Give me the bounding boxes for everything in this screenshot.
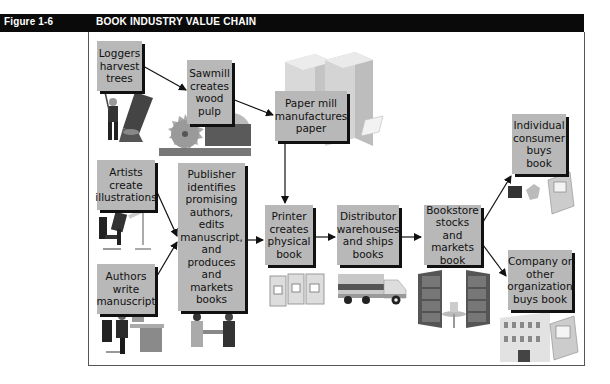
node-paper-mill-label: Paper mill manufactures paper [275,97,348,135]
office-building-icon [500,310,582,362]
node-loggers: Loggers harvest trees [97,41,142,91]
node-artists: Artists create illustrations [97,160,155,210]
node-distributor: Distributor warehouses and ships books [337,205,399,265]
node-artists-label: Artists create illustrations [95,166,156,204]
author-desk-icon [100,310,170,360]
figure-label: Figure 1-6 [4,15,53,27]
handshake-icon [185,312,245,352]
node-individual-consumer-label: Individual consumer buys book [513,119,565,169]
node-sawmill-label: Sawmill creates wood pulp [189,67,230,117]
consumer-computer-icon [508,170,578,216]
node-company-label: Company or other organization buys book [507,255,572,305]
node-loggers-label: Loggers harvest trees [99,47,141,85]
node-sawmill: Sawmill creates wood pulp [187,60,232,124]
printed-books-icon [268,272,328,308]
node-printer: Printer creates physical book [265,205,313,265]
node-publisher-label: Publisher identifies promising authors, … [180,168,243,306]
node-printer-label: Printer creates physical book [267,210,310,260]
truck-icon [336,272,408,306]
bookshelves-icon [418,270,490,332]
figure-title: BOOK INDUSTRY VALUE CHAIN [96,15,256,27]
node-bookstore-label: Bookstore stocks and markets book [426,204,479,267]
node-authors-label: Authors write manuscript [96,270,155,308]
node-individual-consumer: Individual consumer buys book [512,114,566,174]
node-bookstore: Bookstore stocks and markets book [424,205,481,265]
figure-header-bar: Figure 1-6 BOOK INDUSTRY VALUE CHAIN [0,14,584,32]
node-authors: Authors write manuscript [97,264,155,314]
node-company: Company or other organization buys book [508,250,572,310]
node-paper-mill: Paper mill manufactures paper [275,91,347,141]
node-publisher: Publisher identifies promising authors, … [178,163,245,311]
node-distributor-label: Distributor warehouses and ships books [337,210,400,260]
